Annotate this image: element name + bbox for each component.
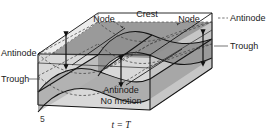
label-no-motion: No motion: [100, 96, 141, 106]
label-trough-left: Trough: [1, 74, 29, 84]
label-trough-right: Trough: [230, 41, 258, 51]
figure-number: 5: [40, 114, 45, 124]
label-antinode-left: Antinode: [1, 48, 37, 58]
label-antinode-top-right: Antinode: [230, 13, 266, 23]
label-antinode-center: Antinode: [103, 85, 139, 95]
label-node-right: Node: [178, 14, 200, 24]
figure-svg: Node Crest Node Antinode Trough Antinode…: [0, 0, 270, 133]
standing-wave-figure: Node Crest Node Antinode Trough Antinode…: [0, 0, 270, 133]
label-crest: Crest: [136, 9, 158, 19]
figure-caption: t = T: [111, 120, 131, 130]
label-node-left: Node: [93, 14, 115, 24]
